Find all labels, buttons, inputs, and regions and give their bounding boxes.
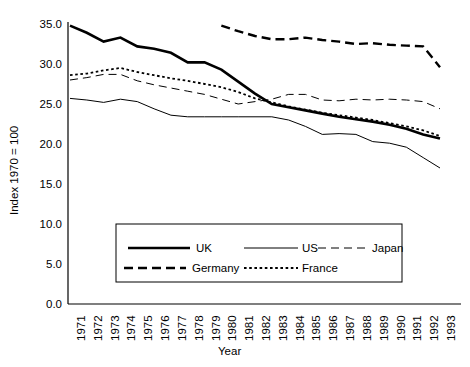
chart-series-group: [70, 26, 440, 168]
legend-label-france: France: [302, 262, 338, 274]
series-line-japan: [70, 74, 440, 108]
x-axis-tick-label: 1983: [277, 315, 289, 341]
x-axis-tick-label: 1990: [395, 315, 407, 341]
y-axis-tick-label: 5.0: [22, 258, 62, 270]
y-axis-tick-label: 35.0: [22, 18, 62, 30]
y-axis-tick-label: 25.0: [22, 98, 62, 110]
x-axis-tick-label: 1979: [210, 315, 222, 341]
y-axis-tick-label: 30.0: [22, 58, 62, 70]
legend-label-japan: Japan: [372, 242, 403, 254]
x-axis-tick-label: 1974: [125, 315, 137, 341]
x-axis-tick-label: 1982: [260, 315, 272, 341]
x-axis-tick-label: 1971: [75, 315, 87, 341]
y-axis-tick-label: 10.0: [22, 218, 62, 230]
x-axis-tick-label: 1972: [92, 315, 104, 341]
x-axis-tick-label: 1978: [193, 315, 205, 341]
x-axis-tick-label: 1988: [361, 315, 373, 341]
legend-label-uk: UK: [196, 242, 212, 254]
y-axis-title: Index 1970 = 100: [8, 126, 20, 215]
x-axis-tick-label: 1992: [428, 315, 440, 341]
y-axis-tick-label: 0.0: [22, 298, 62, 310]
x-axis-tick-label: 1984: [294, 315, 306, 341]
x-axis-tick-label: 1989: [378, 315, 390, 341]
series-line-us: [70, 98, 440, 168]
series-line-germany: [221, 26, 440, 68]
x-axis-tick-label: 1977: [176, 315, 188, 341]
x-axis-tick-label: 1987: [344, 315, 356, 341]
x-axis-title: Year: [218, 345, 241, 357]
legend-label-us: US: [302, 242, 318, 254]
x-axis-tick-label: 1976: [159, 315, 171, 341]
legend-label-germany: Germany: [192, 262, 239, 274]
x-axis-tick-label: 1980: [226, 315, 238, 341]
chart-figure: Index 1970 = 100 Year 0.05.010.015.020.0…: [0, 0, 470, 367]
x-axis-tick-label: 1986: [327, 315, 339, 341]
chart-legend-box: [116, 224, 402, 282]
x-axis-tick-label: 1991: [411, 315, 423, 341]
legend-border: [116, 224, 402, 282]
y-axis-tick-label: 15.0: [22, 178, 62, 190]
x-axis-tick-label: 1981: [243, 315, 255, 341]
x-axis-tick-label: 1973: [109, 315, 121, 341]
x-axis-tick-label: 1985: [310, 315, 322, 341]
x-axis-tick-label: 1975: [142, 315, 154, 341]
series-line-uk: [70, 26, 440, 139]
y-axis-tick-label: 20.0: [22, 138, 62, 150]
x-axis-tick-label: 1993: [445, 315, 457, 341]
chart-plot-svg: [0, 0, 470, 367]
